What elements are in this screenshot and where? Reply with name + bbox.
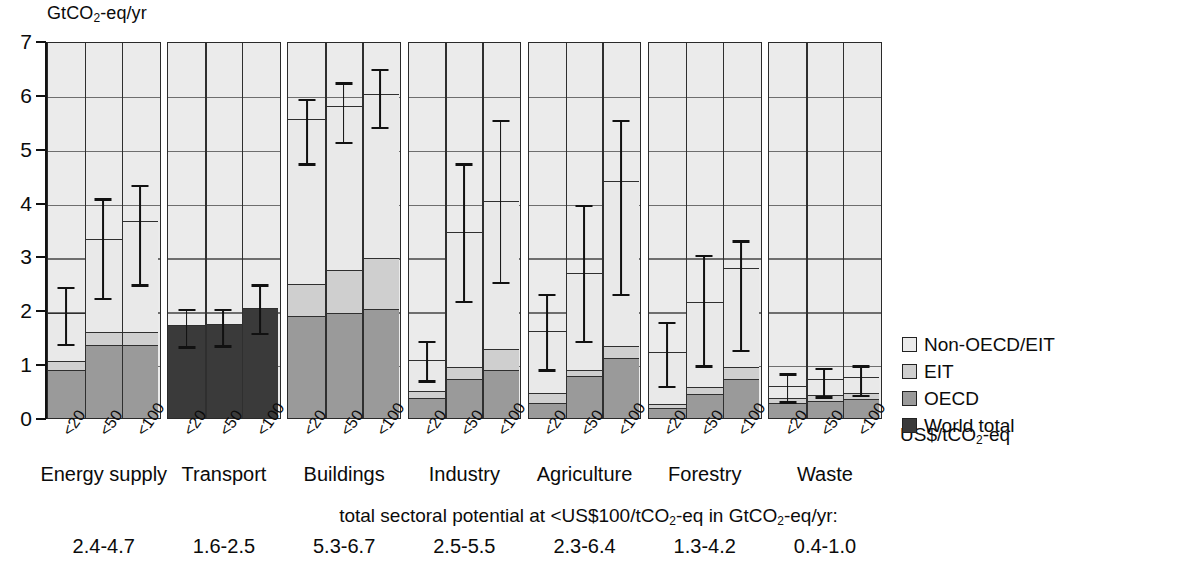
gridline-2 <box>769 312 881 313</box>
gridline-6 <box>649 97 761 98</box>
y-axis-unit-label: GtCO2-eq/yr <box>47 3 147 25</box>
error-bar <box>463 164 465 301</box>
chart-legend: Non-OECD/EITEITOECDWorld total <box>902 332 1055 440</box>
error-bar <box>666 323 668 387</box>
error-bar-cap-upper <box>659 322 676 324</box>
panel-buildings <box>287 42 401 419</box>
y-tick-label-6: 6 <box>4 85 32 106</box>
error-bar-cap-upper <box>455 163 472 165</box>
error-bar <box>306 100 308 165</box>
gridline-4 <box>168 205 280 206</box>
y-axis-unit-main: GtCO <box>47 3 93 23</box>
bar-separator <box>566 43 568 418</box>
segment-eit <box>445 367 482 379</box>
y-tick-mark-6 <box>36 95 46 97</box>
error-bar <box>546 295 548 370</box>
segment-eit <box>48 361 85 369</box>
bar-separator <box>806 43 808 418</box>
error-bar <box>823 369 825 398</box>
legend-item-world[interactable]: World total <box>902 413 1055 438</box>
error-bar-cap-upper <box>131 185 148 187</box>
legend-swatch-icon-world <box>902 418 917 433</box>
error-bar-cap-lower <box>732 350 749 352</box>
error-bar-cap-upper <box>418 341 435 343</box>
error-bar <box>426 342 428 381</box>
error-bar-cap-lower <box>539 369 556 371</box>
error-bar-cap-upper <box>492 120 509 122</box>
footer-caption-b: -eq in GtCO <box>676 505 777 526</box>
segment-eit <box>122 332 159 345</box>
footer-caption-sub2: 2 <box>777 514 784 528</box>
bar-buildings-lt50 <box>325 106 362 418</box>
stacked-bar-chart: GtCO2-eq/yr 76543210 <20<50<100<20<50<10… <box>0 0 1177 575</box>
error-bar <box>583 206 585 342</box>
error-bar <box>740 241 742 351</box>
y-tick-mark-0 <box>36 418 46 420</box>
legend-label-world: World total <box>924 416 1014 435</box>
segment-eit <box>409 391 446 397</box>
error-bar-cap-lower <box>575 341 592 343</box>
sector-label-waste: Waste <box>743 463 907 486</box>
error-bar-cap-upper <box>612 120 629 122</box>
bar-separator <box>445 43 447 418</box>
error-bar <box>703 256 705 366</box>
gridline-5 <box>48 151 160 152</box>
legend-item-nonoecd[interactable]: Non-OECD/EIT <box>902 332 1055 357</box>
error-bar-cap-lower <box>659 386 676 388</box>
gridline-4 <box>769 205 881 206</box>
error-bar <box>139 186 141 286</box>
error-bar <box>620 121 622 295</box>
error-bar <box>500 121 502 283</box>
error-bar <box>102 199 104 299</box>
footer-caption: total sectoral potential at <US$100/tCO2… <box>0 505 1177 528</box>
footer-caption-sub1: 2 <box>669 514 676 528</box>
error-bar-cap-upper <box>335 82 352 84</box>
y-tick-label-7: 7 <box>4 31 32 52</box>
segment-eit <box>602 346 639 358</box>
panel-transport <box>167 42 281 419</box>
gridline-5 <box>529 151 641 152</box>
error-bar <box>65 288 67 345</box>
total-range-waste: 0.4-1.0 <box>743 535 907 558</box>
legend-label-eit: EIT <box>924 362 954 381</box>
gridline-5 <box>168 151 280 152</box>
y-tick-label-5: 5 <box>4 139 32 160</box>
legend-item-oecd[interactable]: OECD <box>902 386 1055 411</box>
segment-eit <box>85 332 122 345</box>
gridline-3 <box>168 258 280 259</box>
y-tick-mark-4 <box>36 203 46 205</box>
bar-separator <box>602 43 604 418</box>
error-bar <box>787 374 789 402</box>
segment-eit <box>566 370 603 376</box>
error-bar-cap-upper <box>58 287 75 289</box>
segment-oecd <box>325 313 362 418</box>
error-bar-cap-lower <box>455 301 472 303</box>
error-bar <box>379 70 381 128</box>
footer-caption-a: total sectoral potential at <US$100/tCO <box>339 505 669 526</box>
panel-waste <box>768 42 882 419</box>
plot-panels <box>47 42 881 419</box>
legend-label-nonoecd: Non-OECD/EIT <box>924 335 1055 354</box>
error-bar-cap-upper <box>252 284 269 286</box>
error-bar-cap-lower <box>252 333 269 335</box>
sector-labels: Energy supplyTransportBuildingsIndustryA… <box>47 463 881 489</box>
error-bar-cap-lower <box>131 284 148 286</box>
error-bar-cap-lower <box>298 163 315 165</box>
y-tick-label-0: 0 <box>4 408 32 429</box>
error-bar-cap-upper <box>853 365 870 367</box>
legend-item-eit[interactable]: EIT <box>902 359 1055 384</box>
error-bar-cap-upper <box>696 255 713 257</box>
footer-caption-c: -eq/yr: <box>784 505 838 526</box>
segment-eit <box>482 349 519 369</box>
gridline-5 <box>409 151 521 152</box>
error-bar <box>343 83 345 142</box>
error-bar <box>860 366 862 396</box>
error-bar-cap-lower <box>372 127 389 129</box>
y-tick-label-4: 4 <box>4 193 32 214</box>
y-tick-mark-5 <box>36 149 46 151</box>
segment-eit <box>288 284 325 315</box>
gridline-6 <box>529 97 641 98</box>
error-bar-cap-lower <box>816 396 833 398</box>
y-tick-label-3: 3 <box>4 246 32 267</box>
bar-separator <box>122 43 124 418</box>
